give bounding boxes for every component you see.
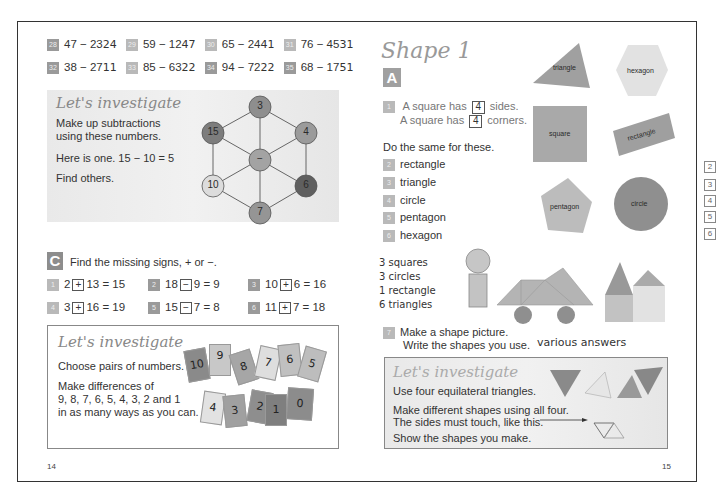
exercise-answer: 22	[261, 61, 275, 74]
section-c-instruction: Find the missing signs, + or −.	[70, 256, 217, 268]
shapes-illustration	[520, 35, 700, 245]
question-7-line2: Write the shapes you use.	[403, 339, 530, 351]
exercise-number: 5	[148, 302, 160, 314]
exercise-number: 35	[284, 62, 296, 74]
node-6: 6	[295, 179, 317, 190]
node-7: 7	[249, 206, 271, 217]
handwritten-answer: 1 rectangle	[379, 285, 436, 296]
section-letter-a: A	[383, 68, 401, 87]
sign-exercise-1: 12+13 = 15	[47, 278, 125, 291]
exercise-answer: 11	[103, 61, 117, 74]
number-card: 3	[222, 394, 247, 428]
right-side: 13 = 15	[86, 278, 125, 290]
list-label: pentagon	[400, 211, 446, 223]
right-side: 6 = 16	[294, 278, 326, 290]
shape-picture-illustration	[455, 240, 685, 325]
node-minus: −	[249, 153, 271, 164]
do-same-instruction: Do the same for these.	[383, 141, 494, 153]
list-label: triangle	[400, 176, 436, 188]
investigate-title: Let's investigate	[393, 363, 518, 381]
question-number: 2	[383, 159, 395, 171]
number-card: 1	[265, 394, 287, 426]
sign-answer-box: +	[72, 279, 84, 291]
exercise-problem: 94 − 72	[222, 61, 261, 73]
number-card: 0	[286, 387, 314, 421]
sign-exercise-5: 515−7 = 8	[148, 301, 220, 314]
exercise-problem: 85 − 63	[143, 61, 182, 73]
sign-answer-box: +	[280, 279, 292, 291]
handwritten-answer: 3 circles	[379, 271, 420, 282]
sign-answer-box: −	[180, 279, 192, 291]
node-3: 3	[249, 100, 271, 111]
question-text: A square has	[402, 100, 466, 112]
investigate-text: Use four equilateral triangles.	[393, 385, 536, 397]
question-7: 7Make a shape picture.	[383, 326, 508, 339]
answer-box: 4	[472, 101, 485, 114]
question-number: 5	[383, 212, 395, 224]
list-item-triangle: 3triangle	[383, 176, 436, 189]
sign-answer-box: −	[180, 302, 192, 314]
exercise-problem: 59 − 12	[143, 38, 182, 50]
question-number: 6	[383, 230, 395, 242]
list-item-pentagon: 5pentagon	[383, 211, 446, 224]
question-text: sides.	[490, 100, 519, 112]
investigate-text: Find others.	[56, 172, 114, 184]
margin-answer-box: 3	[704, 179, 716, 191]
list-label: rectangle	[400, 158, 445, 170]
exercise-problem: 68 − 17	[301, 61, 340, 73]
page-number-right: 15	[662, 462, 671, 471]
exercise-answer: 47	[182, 38, 196, 51]
question-1: 1 A square has 4 sides.	[383, 100, 519, 114]
sign-exercise-3: 310+6 = 16	[248, 278, 326, 291]
exercise-row-1: 2847 − 2324 2959 − 1247 3065 − 2441 3176…	[47, 38, 359, 51]
investigate-text: Choose pairs of numbers.	[58, 360, 184, 372]
exercise-problem: 65 − 24	[222, 38, 261, 50]
right-side: 7 = 18	[293, 301, 325, 313]
exercise-32: 3238 − 2711	[47, 61, 117, 74]
sign-exercise-4: 43+16 = 19	[47, 301, 125, 314]
investigate-text: Show the shapes you make.	[393, 432, 531, 444]
margin-answer-box: 4	[704, 195, 716, 207]
exercise-35: 3568 − 1751	[284, 61, 354, 74]
page-number-left: 14	[47, 462, 56, 471]
handwritten-answer-various: various answers	[537, 336, 626, 349]
exercise-problem: 47 − 23	[64, 38, 103, 50]
pentagon-label: pentagon	[550, 203, 579, 210]
exercise-33: 3385 − 6322	[126, 61, 196, 74]
exercise-30: 3065 − 2441	[205, 38, 275, 51]
exercise-number: 2	[148, 279, 160, 291]
exercise-answer: 24	[103, 38, 117, 51]
investigate-text: The sides must touch, like this.	[393, 416, 543, 428]
exercise-row-2: 3238 − 2711 3385 − 6322 3494 − 7222 3568…	[47, 61, 359, 74]
exercise-number: 4	[47, 302, 59, 314]
list-item-circle: 4circle	[383, 194, 426, 207]
exercise-number: 31	[284, 39, 296, 51]
question-1-line2: A square has 4 corners.	[400, 114, 527, 128]
margin-answer-box: 5	[704, 211, 716, 223]
chapter-title: Shape 1	[381, 38, 471, 63]
exercise-problem: 76 − 45	[301, 38, 340, 50]
question-text: A square has	[400, 114, 464, 126]
circle-label: circle	[631, 200, 647, 207]
exercise-answer: 51	[339, 61, 353, 74]
investigate-text: 9, 8, 7, 6, 5, 4, 3, 2 and 1	[58, 393, 180, 405]
triangles-illustration	[540, 360, 700, 450]
sign-exercise-6: 611+7 = 18	[248, 301, 325, 314]
exercise-answer: 22	[182, 61, 196, 74]
left-operand: 18	[165, 278, 178, 290]
exercise-number: 6	[248, 302, 260, 314]
question-number: 3	[383, 177, 395, 189]
hexagon-label: hexagon	[627, 67, 654, 74]
question-number: 1	[383, 101, 395, 113]
left-operand: 3	[64, 301, 70, 313]
node-15: 15	[202, 126, 224, 137]
margin-answer-box: 2	[704, 161, 716, 173]
node-10: 10	[202, 179, 224, 190]
list-item-rectangle: 2rectangle	[383, 158, 445, 171]
square-label: square	[549, 130, 570, 137]
exercise-number: 34	[205, 62, 217, 74]
exercise-31: 3176 − 4531	[284, 38, 354, 51]
exercise-answer: 31	[339, 38, 353, 51]
list-label: hexagon	[400, 229, 442, 241]
investigate-text: Make differences of	[58, 380, 154, 392]
